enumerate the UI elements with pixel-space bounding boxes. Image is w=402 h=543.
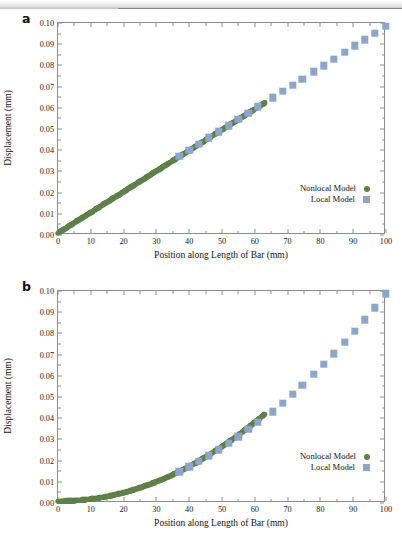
x-tick-label: 30 [152, 505, 160, 514]
y-minor-tick-mark [382, 224, 385, 225]
x-tick-mark [123, 23, 124, 27]
y-tick-mark [58, 65, 62, 66]
x-minor-tick-mark [74, 291, 75, 294]
x-tick-mark [189, 23, 190, 27]
x-minor-tick-mark [205, 231, 206, 234]
x-minor-tick-mark [107, 291, 108, 294]
y-minor-tick-mark [58, 203, 61, 204]
y-minor-tick-mark [382, 118, 385, 119]
y-tick-label: 0.02 [40, 456, 54, 465]
y-minor-tick-mark [58, 118, 61, 119]
y-tick-mark [380, 418, 384, 419]
data-point-local [299, 75, 306, 82]
y-tick-mark [380, 312, 384, 313]
x-tick-mark [90, 229, 91, 233]
y-minor-tick-mark [382, 182, 385, 183]
x-tick-mark [90, 23, 91, 27]
x-tick-mark [353, 497, 354, 501]
y-tick-label: 0.03 [40, 167, 54, 176]
y-tick-mark [380, 213, 384, 214]
legend-marker-nonlocal-circle [364, 186, 370, 192]
y-minor-tick-mark [382, 471, 385, 472]
y-minor-tick-mark [382, 139, 385, 140]
y-tick-label: 0.01 [40, 477, 54, 486]
y-tick-mark [380, 235, 384, 236]
y-tick-mark [380, 129, 384, 130]
y-tick-mark [380, 439, 384, 440]
y-tick-mark [380, 397, 384, 398]
data-point-local [289, 391, 296, 398]
y-tick-label: 0.06 [40, 371, 54, 380]
y-tick-mark [58, 375, 62, 376]
y-tick-label: 0.07 [40, 350, 54, 359]
y-tick-mark [380, 354, 384, 355]
x-tick-mark [287, 229, 288, 233]
data-point-local [289, 81, 296, 88]
x-tick-mark [287, 497, 288, 501]
y-tick-mark [58, 192, 62, 193]
y-minor-tick-mark [382, 492, 385, 493]
x-tick-mark [386, 497, 387, 501]
x-tick-label: 40 [185, 237, 193, 246]
x-tick-label: 90 [349, 505, 357, 514]
x-tick-mark [222, 497, 223, 501]
x-tick-mark [320, 497, 321, 501]
y-minor-tick-mark [382, 76, 385, 77]
legend-marker-nonlocal-circle [364, 454, 370, 460]
x-minor-tick-mark [238, 499, 239, 502]
x-minor-tick-mark [172, 499, 173, 502]
x-minor-tick-mark [74, 23, 75, 26]
y-tick-label: 0.10 [40, 19, 54, 28]
y-axis-title-a: Displacement (mm) [3, 90, 13, 166]
data-point-local [245, 109, 252, 116]
y-tick-mark [58, 86, 62, 87]
data-point-local [254, 103, 261, 110]
x-tick-mark [156, 229, 157, 233]
x-tick-label: 50 [218, 237, 226, 246]
x-tick-label: 10 [87, 505, 95, 514]
chart-legend: Nonlocal ModelLocal Model [300, 451, 370, 473]
data-point-local [279, 399, 286, 406]
x-tick-label: 0 [56, 237, 60, 246]
x-tick-mark [254, 229, 255, 233]
x-tick-mark [320, 229, 321, 233]
y-tick-mark [58, 129, 62, 130]
data-point-local [351, 42, 358, 49]
x-tick-mark [320, 23, 321, 27]
data-point-local [279, 88, 286, 95]
data-point-local [382, 22, 389, 29]
x-minor-tick-mark [205, 499, 206, 502]
y-minor-tick-mark [58, 492, 61, 493]
y-minor-tick-mark [382, 450, 385, 451]
y-tick-label: 0.04 [40, 414, 54, 423]
x-minor-tick-mark [271, 23, 272, 26]
x-minor-tick-mark [369, 231, 370, 234]
data-point-local [330, 350, 337, 357]
y-tick-mark [58, 333, 62, 334]
x-tick-mark [254, 23, 255, 27]
x-tick-label: 90 [349, 237, 357, 246]
y-minor-tick-mark [382, 365, 385, 366]
x-tick-mark [353, 291, 354, 295]
y-minor-tick-mark [58, 160, 61, 161]
y-tick-mark [380, 150, 384, 151]
legend-item-nonlocal: Nonlocal Model [300, 183, 370, 194]
data-point-local [205, 452, 212, 459]
y-tick-mark [380, 375, 384, 376]
data-point-local [382, 290, 389, 297]
x-minor-tick-mark [336, 291, 337, 294]
data-point-local [195, 140, 202, 147]
y-tick-mark [380, 460, 384, 461]
x-minor-tick-mark [304, 23, 305, 26]
y-minor-tick-mark [382, 344, 385, 345]
x-minor-tick-mark [336, 231, 337, 234]
data-point-local [225, 122, 232, 129]
data-point-local [341, 338, 348, 345]
x-minor-tick-mark [140, 291, 141, 294]
y-minor-tick-mark [58, 182, 61, 183]
y-minor-tick-mark [58, 471, 61, 472]
data-point-local [371, 304, 378, 311]
x-tick-label: 20 [120, 237, 128, 246]
x-minor-tick-mark [238, 231, 239, 234]
x-tick-mark [189, 229, 190, 233]
